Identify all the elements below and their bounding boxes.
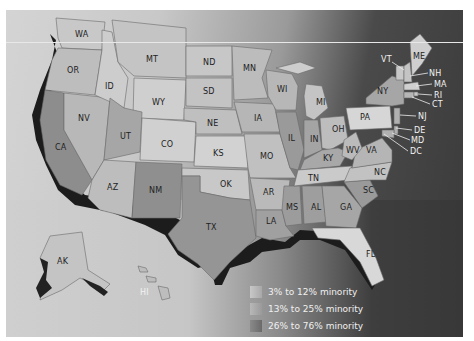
leader-ct bbox=[412, 97, 430, 104]
leader-nj bbox=[400, 115, 416, 116]
leader-de bbox=[396, 128, 412, 130]
leader-dc bbox=[384, 134, 408, 151]
legend-swatch-low bbox=[250, 286, 262, 298]
leader-lines bbox=[0, 0, 474, 341]
legend-swatch-high bbox=[250, 320, 262, 332]
map-legend: 3% to 12% minority 13% to 25% minority 2… bbox=[250, 284, 363, 335]
leader-md bbox=[392, 133, 410, 140]
leader-vt bbox=[392, 62, 404, 70]
legend-item-mid: 13% to 25% minority bbox=[250, 301, 363, 316]
legend-item-high: 26% to 76% minority bbox=[250, 318, 363, 333]
leader-nh bbox=[410, 73, 428, 76]
legend-label-low: 3% to 12% minority bbox=[268, 287, 357, 297]
legend-item-low: 3% to 12% minority bbox=[250, 284, 363, 299]
leader-ma bbox=[416, 84, 432, 86]
legend-label-mid: 13% to 25% minority bbox=[268, 304, 363, 314]
legend-label-high: 26% to 76% minority bbox=[268, 321, 363, 331]
legend-swatch-mid bbox=[250, 303, 262, 315]
leader-ri bbox=[418, 94, 432, 95]
